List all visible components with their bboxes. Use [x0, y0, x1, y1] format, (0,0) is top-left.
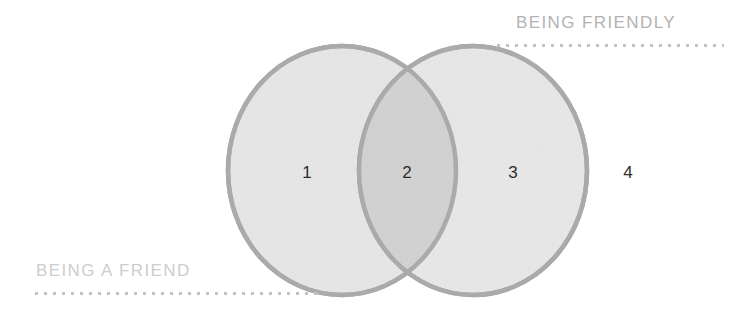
set-label-being-a-friend: BEING A FRIEND — [36, 262, 191, 279]
region-label-left-only: 1 — [302, 164, 311, 181]
leader-dots-being-friendly — [494, 44, 724, 47]
region-label-right-only: 3 — [508, 164, 517, 181]
leader-dots-being-a-friend — [32, 292, 320, 295]
set-label-being-friendly: BEING FRIENDLY — [516, 14, 676, 31]
venn-diagram-canvas: BEING FRIENDLY BEING A FRIEND 1 2 3 4 — [0, 0, 740, 323]
region-label-outside: 4 — [623, 164, 632, 181]
region-label-intersection: 2 — [402, 164, 411, 181]
